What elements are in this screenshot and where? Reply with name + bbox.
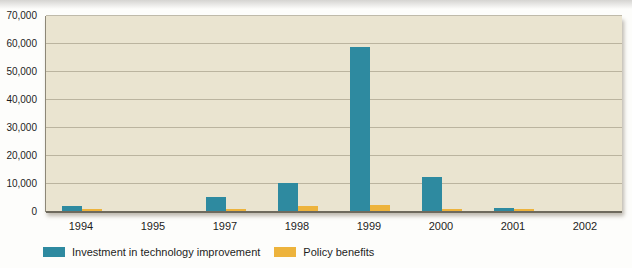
x-axis-line	[46, 211, 622, 213]
y-axis-label: 50,000	[0, 66, 37, 78]
y-axis-label: 40,000	[0, 94, 37, 106]
legend-label: Investment in technology improvement	[72, 246, 260, 258]
bar-group-2002	[550, 16, 622, 212]
plot-area	[45, 16, 622, 212]
y-axis-label: 0	[0, 206, 37, 218]
bar	[350, 47, 370, 212]
x-axis-label: 1997	[189, 220, 261, 236]
legend-item: Policy benefits	[274, 246, 374, 258]
y-axis: 70,00060,00050,00040,00030,00020,00010,0…	[0, 16, 40, 212]
y-axis-label: 30,000	[0, 122, 37, 134]
x-axis-label: 2000	[405, 220, 477, 236]
x-axis-label: 2001	[477, 220, 549, 236]
bar	[206, 197, 226, 212]
legend: Investment in technology improvementPoli…	[43, 246, 374, 258]
legend-swatch-icon	[274, 247, 296, 257]
legend-label: Policy benefits	[303, 246, 374, 258]
x-axis-label: 1998	[261, 220, 333, 236]
bar-group-1995	[118, 16, 190, 212]
bar-group-2000	[406, 16, 478, 212]
x-axis: 19941995199719981999200020012002	[45, 220, 621, 236]
scan-shading	[0, 0, 632, 9]
legend-item: Investment in technology improvement	[43, 246, 260, 258]
chart: 70,00060,00050,00040,00030,00020,00010,0…	[0, 0, 632, 268]
y-axis-label: 20,000	[0, 150, 37, 162]
x-axis-label: 1995	[117, 220, 189, 236]
bar-group-1994	[46, 16, 118, 212]
y-axis-label: 10,000	[0, 178, 37, 190]
bar	[278, 183, 298, 212]
bar	[422, 177, 442, 212]
x-axis-label: 1999	[333, 220, 405, 236]
bar-group-1999	[334, 16, 406, 212]
x-axis-label: 1994	[45, 220, 117, 236]
y-axis-label: 70,000	[0, 10, 37, 22]
bar-group-1997	[190, 16, 262, 212]
bar-groups	[46, 16, 622, 212]
y-axis-label: 60,000	[0, 38, 37, 50]
legend-swatch-icon	[43, 247, 65, 257]
bar-group-1998	[262, 16, 334, 212]
bar-group-2001	[478, 16, 550, 212]
x-axis-label: 2002	[549, 220, 621, 236]
